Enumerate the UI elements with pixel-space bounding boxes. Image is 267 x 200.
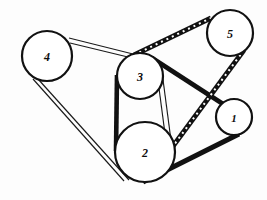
pulley-3[interactable]: 3 [117,53,163,99]
pulley-2-label: 2 [141,146,148,160]
pulley-3-label: 3 [136,70,143,84]
pulley-5-label: 5 [227,27,233,41]
pulley-2[interactable]: 2 [115,122,175,182]
pulley-diagram-canvas: 1 2 3 4 5 [0,0,267,200]
pulley-1-label: 1 [231,112,237,124]
pulley-4[interactable]: 4 [22,31,72,81]
pulley-diagram-root: 1 2 3 4 5 [0,0,267,200]
pulley-4-label: 4 [43,50,50,64]
pulley-5[interactable]: 5 [207,10,253,56]
pulley-1[interactable]: 1 [216,99,252,135]
